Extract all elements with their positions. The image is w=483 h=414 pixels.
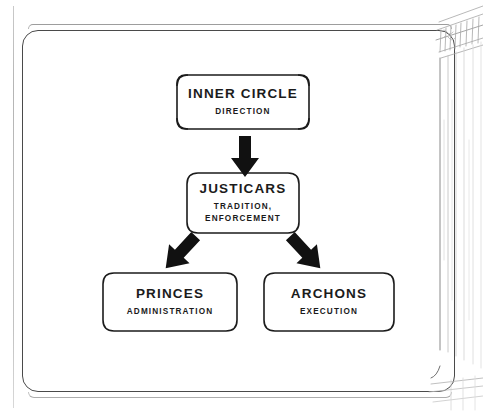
node-inner-circle-title: INNER CIRCLE — [186, 86, 300, 102]
node-princes-text: PRINCES ADMINISTRATION — [102, 286, 238, 318]
node-inner-circle[interactable]: INNER CIRCLE DIRECTION — [176, 74, 310, 130]
node-archons[interactable]: ARCHONS EXECUTION — [263, 272, 395, 332]
node-archons-subtitle: EXECUTION — [273, 306, 385, 318]
node-inner-circle-subtitle: DIRECTION — [186, 106, 300, 118]
node-archons-text: ARCHONS EXECUTION — [263, 286, 395, 318]
node-justicars-subtitle-line-1: TRADITION, — [196, 201, 290, 213]
page-border-bottom-accent — [28, 392, 452, 398]
node-princes-title: PRINCES — [112, 286, 228, 302]
node-princes-subtitle: ADMINISTRATION — [112, 306, 228, 318]
node-inner-circle-text: INNER CIRCLE DIRECTION — [176, 86, 310, 118]
node-archons-subtitle-line-1: EXECUTION — [273, 306, 385, 318]
node-justicars-subtitle: TRADITION, ENFORCEMENT — [196, 201, 290, 225]
node-princes[interactable]: PRINCES ADMINISTRATION — [102, 272, 238, 332]
node-justicars-text: JUSTICARS TRADITION, ENFORCEMENT — [186, 181, 300, 225]
page-border-top-accent — [28, 24, 452, 29]
arrow-justicars-to-archons — [278, 228, 334, 278]
node-justicars-subtitle-line-2: ENFORCEMENT — [196, 213, 290, 225]
arrow-inner-circle-to-justicars — [225, 136, 265, 178]
node-princes-subtitle-line-1: ADMINISTRATION — [112, 306, 228, 318]
arrow-justicars-to-princes — [152, 228, 208, 278]
node-justicars-title: JUSTICARS — [196, 181, 290, 197]
diagram-page: INNER CIRCLE DIRECTION JUSTICARS TRADITI… — [0, 0, 483, 414]
node-inner-circle-subtitle-line-1: DIRECTION — [186, 106, 300, 118]
node-justicars[interactable]: JUSTICARS TRADITION, ENFORCEMENT — [186, 172, 300, 234]
page-outer-margin-rule — [13, 6, 14, 408]
node-archons-title: ARCHONS — [273, 286, 385, 302]
